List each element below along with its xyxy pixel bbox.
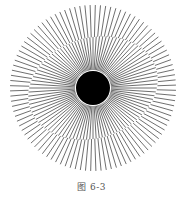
spoke-line bbox=[157, 85, 175, 86]
spoke-line bbox=[34, 96, 77, 116]
spoke-line bbox=[15, 111, 31, 117]
spoke-line bbox=[35, 131, 51, 147]
figure-caption: 图 6-3 bbox=[0, 180, 183, 193]
spoke-line bbox=[148, 108, 171, 116]
spoke-line bbox=[153, 101, 175, 106]
spoke-line bbox=[90, 5, 91, 37]
spoke-line bbox=[133, 123, 155, 143]
spoke-line bbox=[17, 55, 40, 65]
spoke-line bbox=[111, 80, 158, 86]
spoke-line bbox=[139, 33, 155, 47]
spoke-line bbox=[91, 139, 92, 171]
spoke-line bbox=[65, 139, 75, 166]
spoke-line bbox=[70, 139, 78, 167]
spoke-line bbox=[28, 90, 75, 96]
spoke-line bbox=[95, 139, 96, 171]
spoke-line bbox=[85, 5, 88, 37]
spoke-line bbox=[111, 10, 121, 37]
spoke-line bbox=[157, 90, 176, 91]
spoke-line bbox=[146, 41, 162, 52]
spoke-line bbox=[11, 98, 28, 101]
spoke-line bbox=[29, 89, 75, 92]
spoke-line bbox=[85, 139, 88, 170]
spoke-line bbox=[154, 97, 175, 100]
spoke-line bbox=[31, 33, 53, 53]
spoke-line bbox=[38, 26, 59, 49]
spoke-line bbox=[42, 23, 61, 48]
spoke-line bbox=[146, 111, 169, 121]
radial-spoke-figure bbox=[0, 0, 183, 178]
spoke-line bbox=[158, 75, 175, 78]
spoke-line bbox=[75, 139, 82, 169]
spoke-line bbox=[10, 86, 29, 87]
spoke-line bbox=[110, 72, 156, 84]
spoke-line bbox=[15, 60, 38, 68]
spoke-line bbox=[143, 37, 159, 49]
spoke-line bbox=[111, 89, 156, 92]
spoke-line bbox=[28, 127, 44, 139]
spoke-line bbox=[30, 84, 75, 87]
spoke-line bbox=[98, 138, 101, 170]
spoke-line bbox=[109, 60, 152, 80]
spoke-line bbox=[156, 65, 172, 70]
spoke-line bbox=[128, 127, 149, 150]
spoke-line bbox=[34, 30, 56, 51]
spoke-line bbox=[12, 103, 29, 107]
spoke-line bbox=[46, 20, 64, 46]
spoke-line bbox=[148, 46, 164, 55]
spoke-line bbox=[104, 7, 111, 37]
center-disk bbox=[76, 71, 110, 105]
spoke-line bbox=[158, 80, 176, 82]
spoke-line bbox=[155, 60, 171, 66]
spoke-line bbox=[22, 121, 38, 130]
spoke-line bbox=[12, 70, 34, 75]
spoke-line bbox=[31, 129, 47, 143]
spoke-line bbox=[111, 84, 157, 87]
spoke-line bbox=[13, 107, 29, 112]
spoke-line bbox=[94, 5, 95, 37]
spoke-line bbox=[122, 130, 140, 156]
spoke-line bbox=[29, 92, 75, 104]
spoke-line bbox=[130, 125, 152, 146]
spoke-line bbox=[99, 37, 110, 71]
spoke-line bbox=[125, 129, 144, 154]
spoke-line bbox=[98, 5, 101, 36]
spoke-line bbox=[157, 70, 174, 74]
spoke-line bbox=[10, 80, 30, 82]
spoke-line bbox=[108, 8, 116, 36]
spoke-line bbox=[11, 75, 32, 78]
spoke-line bbox=[10, 94, 28, 96]
spoke-line bbox=[25, 124, 41, 135]
spoke-line bbox=[10, 90, 28, 91]
spoke-line bbox=[156, 94, 176, 96]
spoke-line bbox=[136, 29, 152, 45]
spoke-line bbox=[76, 105, 87, 139]
